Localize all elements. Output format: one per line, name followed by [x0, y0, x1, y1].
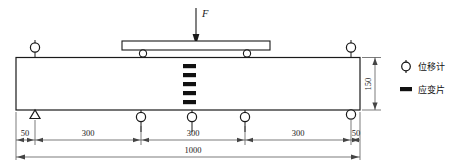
gauge-circle: [346, 43, 355, 52]
strain-gauge: [183, 64, 196, 68]
displacement-gauge-top-right: [346, 40, 355, 58]
dim-arrow: [343, 138, 350, 143]
gauge-circle: [30, 43, 39, 52]
strain-gauge: [183, 73, 196, 77]
overall-arrow-left: [17, 155, 25, 160]
displacement-gauge-top-left: [30, 40, 39, 58]
segment-label-0: 50: [21, 128, 30, 138]
dim-arrow: [27, 138, 34, 143]
roller-support-circle: [346, 110, 355, 119]
dim-arrow: [133, 138, 140, 143]
gauge-circle: [136, 112, 145, 121]
segment-label-4: 50: [352, 128, 361, 138]
gauge-circle: [187, 112, 196, 121]
depth-dimension: 150: [362, 58, 381, 111]
depth-arrow-bottom: [372, 103, 377, 110]
gauge-circle: [240, 112, 249, 121]
spreader-beam-group: [122, 41, 270, 57]
dim-arrow: [237, 138, 244, 143]
dim-arrow: [17, 138, 24, 143]
segment-label-1: 300: [82, 128, 95, 138]
spreader-beam: [122, 41, 270, 50]
displacement-gauge-symbol: [402, 62, 411, 71]
overall-dimension-label: 1000: [185, 145, 202, 155]
segment-label-2: 300: [187, 128, 200, 138]
applied-load-group: F: [193, 8, 209, 45]
dim-arrow: [36, 138, 43, 143]
legend-label-displacement-gauge: 位移计: [418, 61, 445, 72]
strain-gauge-symbol: [400, 87, 412, 91]
strain-gauge: [183, 91, 196, 95]
segment-label-3: 300: [292, 128, 305, 138]
legend-item-displacement-gauge: 位移计: [402, 60, 445, 73]
legend-label-strain-gauge: 应变片: [418, 84, 445, 95]
load-label: F: [201, 8, 209, 19]
depth-dimension-label: 150: [363, 78, 373, 91]
overall-arrow-right: [351, 155, 359, 160]
spreader-roller-left: [139, 50, 146, 57]
legend: 位移计 应变片: [400, 60, 445, 95]
pin-support-triangle: [30, 110, 40, 119]
legend-item-strain-gauge: 应变片: [400, 84, 445, 95]
figure-root: F: [0, 0, 465, 167]
dim-arrow: [246, 138, 253, 143]
spreader-roller-right: [243, 50, 250, 57]
depth-arrow-top: [372, 58, 377, 65]
strain-gauge: [183, 100, 196, 104]
dim-arrow: [142, 138, 149, 143]
beam-test-setup-diagram: F: [0, 0, 465, 167]
strain-gauge: [183, 82, 196, 86]
